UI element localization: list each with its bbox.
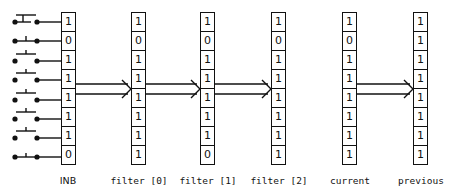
switch-bank [16,15,36,157]
bit-cell: 1 [201,108,214,127]
bit-cell: 1 [272,127,285,146]
label-filter-0: filter [0] [104,175,174,186]
bit-cell: 1 [132,108,145,127]
bit-cell: 1 [343,108,356,127]
bit-cell: 1 [343,89,356,108]
bit-cell: 1 [272,51,285,70]
bit-cell: 0 [272,32,285,51]
bit-cell: 1 [414,70,427,89]
label-previous: previous [386,175,450,186]
bit-cell: 1 [62,70,75,89]
bit-cell: 0 [62,32,75,51]
bit-cell: 1 [343,127,356,146]
bit-cell: 1 [272,13,285,32]
bit-cell: 0 [343,32,356,51]
bit-cell: 1 [272,70,285,89]
bit-cell: 1 [132,70,145,89]
register-filter-0: 1 0 1 1 1 1 1 1 [131,12,146,165]
bit-cell: 1 [201,13,214,32]
bit-cell: 1 [132,146,145,164]
bit-cell: 1 [343,13,356,32]
label-current: current [315,175,385,186]
bit-cell: 1 [132,127,145,146]
register-previous: 1 1 1 1 1 1 1 1 [413,12,428,165]
register-current: 1 0 1 1 1 1 1 1 [342,12,357,165]
arrows [75,80,413,98]
bit-cell: 1 [343,146,356,164]
bit-cell: 1 [414,146,427,164]
bit-cell: 1 [414,51,427,70]
label-inb: INB [33,175,103,186]
bit-cell: 1 [132,51,145,70]
bit-cell: 1 [414,127,427,146]
bit-cell: 1 [414,108,427,127]
bit-cell: 1 [62,127,75,146]
lead-wires [38,22,61,157]
label-filter-1: filter [1] [173,175,243,186]
bit-cell: 1 [414,32,427,51]
bit-cell: 1 [132,89,145,108]
bit-cell: 1 [343,70,356,89]
bit-cell: 1 [201,70,214,89]
bit-cell: 0 [132,32,145,51]
register-filter-1: 1 0 1 1 1 1 1 0 [200,12,215,165]
bit-cell: 1 [272,146,285,164]
bit-cell: 1 [62,108,75,127]
bit-cell: 1 [201,51,214,70]
bit-cell: 1 [343,51,356,70]
bit-cell: 1 [132,13,145,32]
bit-cell: 0 [201,146,214,164]
label-filter-2: filter [2] [244,175,314,186]
bit-cell: 1 [62,89,75,108]
bit-cell: 1 [62,51,75,70]
bit-cell: 1 [414,89,427,108]
bit-cell: 1 [272,108,285,127]
bit-cell: 1 [414,13,427,32]
bit-cell: 1 [62,13,75,32]
bit-cell: 0 [201,32,214,51]
register-filter-2: 1 0 1 1 1 1 1 1 [271,12,286,165]
bit-cell: 1 [201,89,214,108]
bit-cell: 0 [62,146,75,164]
bit-cell: 1 [201,127,214,146]
bit-cell: 1 [272,89,285,108]
register-inb: 1 0 1 1 1 1 1 0 [61,12,76,165]
